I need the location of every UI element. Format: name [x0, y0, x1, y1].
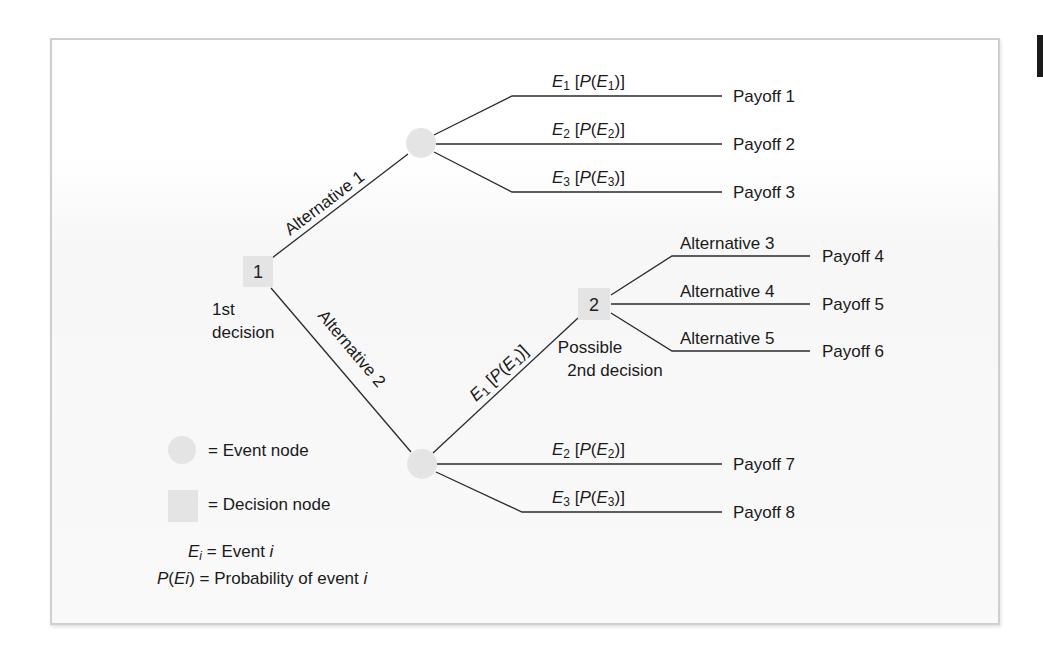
label-alternative-5: Alternative 5 — [680, 329, 775, 348]
label-lower-e1: E1 [P(E1)] — [466, 341, 534, 406]
legend-probability-definition: P(Ei) = Probability of event i — [157, 569, 369, 588]
event-node-lower — [407, 449, 437, 479]
label-alternative-4: Alternative 4 — [680, 282, 775, 301]
label-upper-e2: E2 [P(E2)] — [552, 120, 625, 141]
legend: = Event node = Decision node Ei = Event … — [157, 436, 369, 588]
tree-edges — [271, 96, 810, 512]
label-alternative-1: Alternative 1 — [281, 167, 368, 239]
label-lower-e2: E2 [P(E2)] — [552, 440, 625, 461]
label-upper-e1: E1 [P(E1)] — [552, 72, 625, 93]
label-alternative-3: Alternative 3 — [680, 234, 775, 253]
payoff-5: Payoff 5 — [822, 295, 884, 314]
decision-node-2-label: 2 — [589, 295, 599, 315]
edge-alternative-2 — [271, 288, 411, 452]
label-upper-e3: E3 [P(E3)] — [552, 168, 625, 189]
decision-node-1-label: 1 — [253, 262, 263, 282]
payoff-8: Payoff 8 — [733, 503, 795, 522]
legend-decision-node-icon — [168, 490, 198, 522]
payoff-1: Payoff 1 — [733, 87, 795, 106]
label-alternative-2: Alternative 2 — [314, 306, 389, 391]
payoff-2: Payoff 2 — [733, 135, 795, 154]
decision-1-caption-line2: decision — [212, 323, 274, 342]
decision-1-caption-line1: 1st — [212, 300, 235, 319]
payoff-7: Payoff 7 — [733, 455, 795, 474]
payoff-4: Payoff 4 — [822, 247, 884, 266]
payoff-6: Payoff 6 — [822, 342, 884, 361]
legend-event-node-text: = Event node — [208, 441, 309, 460]
legend-event-definition: Ei = Event i — [188, 542, 275, 563]
decision-tree-diagram: 1 2 1st decision Possible 2nd decision A… — [0, 0, 1043, 649]
cropped-heading-fragment — [1037, 35, 1043, 77]
legend-event-node-icon — [168, 436, 196, 464]
edge-lower-e1 — [433, 318, 578, 453]
edge-alternative-1 — [272, 154, 408, 258]
decision-2-caption-line1: Possible — [558, 338, 622, 357]
event-node-upper — [406, 128, 436, 158]
payoff-3: Payoff 3 — [733, 183, 795, 202]
legend-decision-node-text: = Decision node — [208, 495, 330, 514]
label-lower-e3: E3 [P(E3)] — [552, 488, 625, 509]
decision-2-caption-line2: 2nd decision — [567, 361, 662, 380]
